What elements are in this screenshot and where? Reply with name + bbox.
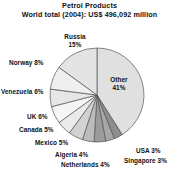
slice-label-russia-value: 15% — [60, 41, 90, 49]
slice-label-algeria: Algeria 4% — [55, 151, 88, 159]
slice-label-other: Other 41% — [106, 76, 132, 91]
slice-label-netherlands: Netherlands 4% — [61, 161, 110, 169]
slice-label-russia-name: Russia — [60, 33, 90, 41]
pie-slices-group — [50, 48, 144, 142]
slice-label-other-name: Other — [106, 76, 132, 84]
slice-label-uk: UK 6% — [27, 113, 48, 121]
slice-label-russia: Russia 15% — [60, 33, 90, 48]
slice-label-norway: Norway 8% — [9, 59, 44, 67]
slice-label-other-value: 41% — [106, 84, 132, 92]
slice-label-usa: USA 3% — [136, 147, 161, 155]
slice-label-canada: Canada 5% — [19, 126, 54, 134]
pie-chart-figure: Petrol Products World total (2004): US$ … — [0, 0, 179, 176]
slice-label-singapore: Singapore 3% — [124, 157, 167, 165]
slice-label-mexico: Mexico 5% — [35, 139, 68, 147]
slice-label-venezuela: Venezuela 6% — [1, 88, 44, 96]
